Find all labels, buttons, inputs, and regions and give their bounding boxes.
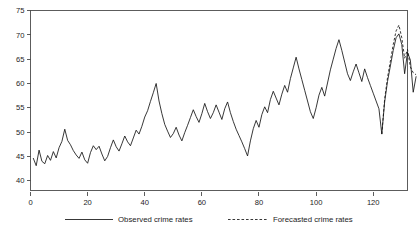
y-tick-label: 65 xyxy=(16,55,24,64)
legend-label-forecast: Forecasted crime rates xyxy=(273,215,353,224)
x-tick-label: 0 xyxy=(28,198,32,207)
x-axis: 020406080100120 xyxy=(28,192,379,207)
x-tick-label: 40 xyxy=(141,198,149,207)
y-tick-label: 45 xyxy=(16,152,24,161)
series-observed-crime-rates xyxy=(33,34,416,166)
plot-area-frame xyxy=(31,11,408,191)
y-tick-label: 70 xyxy=(16,31,24,40)
x-tick-label: 60 xyxy=(198,198,206,207)
y-tick-label: 75 xyxy=(16,6,24,15)
chart-svg: 4045505560657075 020406080100120 Observe… xyxy=(0,0,420,233)
x-tick-label: 100 xyxy=(310,198,323,207)
y-axis: 4045505560657075 xyxy=(16,6,30,185)
x-tick-label: 120 xyxy=(367,198,380,207)
crime-rates-chart-figure: 4045505560657075 020406080100120 Observe… xyxy=(0,0,420,233)
x-tick-label: 20 xyxy=(83,198,91,207)
y-tick-label: 40 xyxy=(16,176,24,185)
x-tick-label: 80 xyxy=(255,198,263,207)
chart-legend: Observed crime rates Forecasted crime ra… xyxy=(65,215,353,224)
series-forecasted-crime-rates xyxy=(382,25,416,134)
y-tick-label: 50 xyxy=(16,128,24,137)
legend-label-observed: Observed crime rates xyxy=(118,215,193,224)
y-tick-label: 60 xyxy=(16,79,24,88)
y-tick-label: 55 xyxy=(16,103,24,112)
